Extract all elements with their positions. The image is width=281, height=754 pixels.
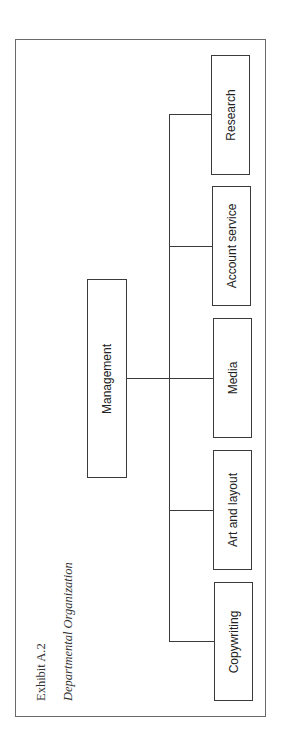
org-node-copywriting: Copywriting: [214, 582, 253, 701]
org-node-management: Management: [87, 279, 127, 478]
org-node-research: Research: [211, 55, 250, 175]
org-node-label: Art and layout: [226, 473, 240, 547]
org-node-label: Copywriting: [227, 610, 241, 673]
org-node-label: Research: [224, 89, 238, 140]
org-node-account-service: Account service: [212, 186, 251, 306]
exhibit-title: Departmental Organization: [61, 562, 76, 701]
org-node-media: Media: [213, 318, 252, 438]
connector-art-and-layout: [169, 510, 213, 511]
org-node-label: Media: [226, 362, 240, 395]
org-node-label: Management: [100, 343, 114, 413]
connector-research: [169, 114, 211, 115]
org-node-art-and-layout: Art and layout: [213, 450, 252, 570]
connector-account-service: [169, 246, 212, 247]
connector-copywriting: [169, 641, 214, 642]
org-node-label: Account service: [225, 204, 239, 289]
connector-bus: [169, 114, 170, 642]
exhibit-label: Exhibit A.2: [34, 643, 49, 701]
